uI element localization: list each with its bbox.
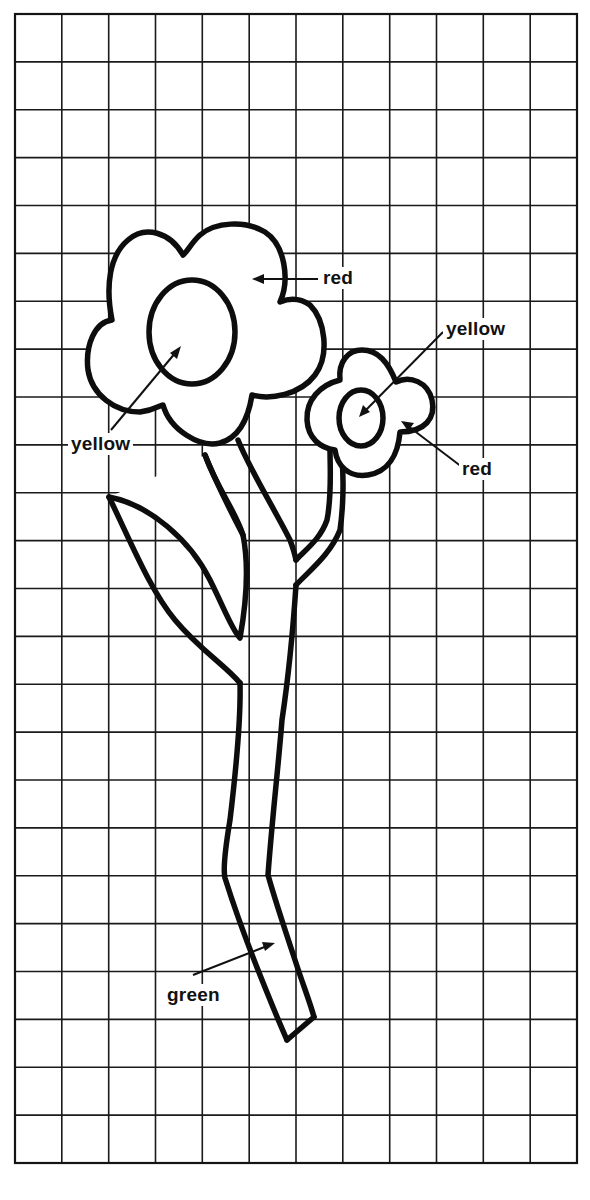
label-big-flower-petals: red — [320, 267, 356, 289]
label-small-flower-petals: red — [459, 458, 495, 480]
coloring-worksheet: red yellow yellow red green — [0, 0, 590, 1200]
label-small-flower-center: yellow — [443, 318, 508, 340]
small-stem-left-edge — [296, 448, 330, 560]
label-stem: green — [164, 984, 223, 1006]
stem-bottom-cut — [287, 1017, 314, 1040]
label-big-flower-center: yellow — [68, 433, 133, 455]
flower-drawing — [0, 0, 590, 1200]
small-stem-right-edge — [296, 460, 343, 585]
